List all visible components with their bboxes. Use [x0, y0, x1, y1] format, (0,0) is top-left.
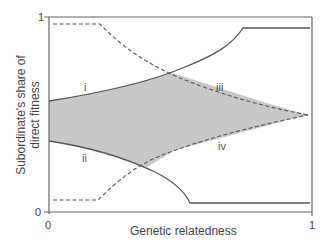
- x-axis-label: Genetic relatedness: [130, 224, 237, 238]
- x-tick-0: 0: [45, 219, 51, 231]
- curve-label-iv: iv: [218, 140, 226, 152]
- x-tick-1: 1: [309, 219, 315, 231]
- curve-label-i: i: [84, 81, 86, 93]
- curve-ii: [49, 141, 310, 203]
- y-tick-0: 0: [35, 206, 41, 218]
- y-tick-1: 1: [38, 11, 44, 23]
- y-axis-label-line2: direct fitness: [28, 81, 42, 148]
- chart-canvas: 1 0 0 1 Genetic relatedness Subordinate'…: [0, 0, 329, 247]
- curve-label-ii: ii: [82, 152, 87, 164]
- shaded-region: [49, 73, 308, 167]
- y-axis-label-line1: Subordinate's share of: [14, 54, 28, 174]
- curve-label-iii: iii: [216, 81, 223, 93]
